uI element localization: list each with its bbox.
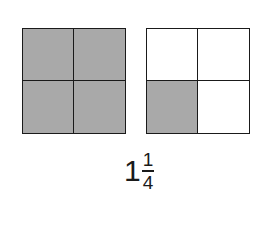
fraction-square-2 — [146, 28, 250, 134]
cell-shaded — [23, 29, 74, 81]
whole-number: 1 — [124, 156, 141, 186]
denominator: 4 — [143, 172, 154, 192]
fraction-square-1 — [22, 28, 126, 134]
cell-shaded — [74, 29, 125, 81]
cell-empty — [198, 29, 249, 81]
cell-shaded — [74, 81, 125, 133]
numerator: 1 — [142, 150, 155, 170]
cell-empty — [198, 81, 249, 133]
mixed-number-label: 1 1 4 — [124, 150, 154, 192]
cell-shaded — [147, 81, 198, 133]
cell-empty — [147, 29, 198, 81]
fraction: 1 4 — [142, 150, 155, 192]
cell-shaded — [23, 81, 74, 133]
